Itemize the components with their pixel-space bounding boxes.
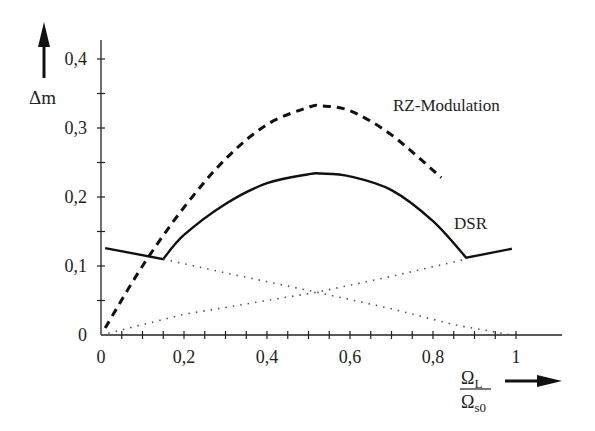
x-tick-label: 0,8 <box>422 347 445 367</box>
x-tick-label: 0,4 <box>256 347 279 367</box>
svg-text:Ωs0: Ωs0 <box>461 392 486 415</box>
svg-text:ΩL: ΩL <box>461 368 482 391</box>
y-tick-label: 0,4 <box>65 49 88 69</box>
x-tick-label: 0,2 <box>173 347 196 367</box>
series-dotted-falling <box>163 259 512 335</box>
y-tick-label: 0,3 <box>65 118 88 138</box>
x-axis-label: ΩL Ωs0 <box>460 368 491 415</box>
chart: 00,20,40,60,8100,10,20,30,4 Δm RZ-Modula… <box>0 0 595 431</box>
rz-modulation-label: RZ-Modulation <box>393 96 500 115</box>
axes: 00,20,40,60,8100,10,20,30,4 <box>65 40 563 367</box>
y-tick-label: 0,2 <box>65 187 88 207</box>
x-tick-label: 1 <box>512 347 521 367</box>
y-tick-label: 0 <box>78 325 87 345</box>
x-tick-label: 0 <box>97 347 106 367</box>
y-tick-label: 0,1 <box>65 256 88 276</box>
series-layer <box>101 105 512 335</box>
y-axis-label: Δm <box>29 87 56 108</box>
series-dotted-rising <box>101 259 466 335</box>
x-tick-label: 0,6 <box>339 347 362 367</box>
y-axis-arrow-icon <box>38 22 50 78</box>
series-rz-modulation <box>105 105 441 328</box>
x-axis-arrow-icon <box>505 375 562 387</box>
series-dsr <box>105 173 512 259</box>
dsr-label: DSR <box>454 214 488 233</box>
